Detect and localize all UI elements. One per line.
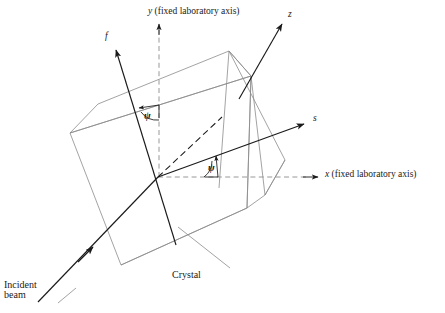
z-axis-label: z [288,10,292,20]
x-axis-label: x (fixed laboratory axis) [325,170,417,180]
incident-beam-arrowhead-stem [78,247,93,262]
y-axis-caption-text: (fixed laboratory axis) [152,6,239,16]
f-vector-label: f [105,32,108,42]
crystal-body [70,51,285,265]
figure-canvas: y (fixed laboratory axis) x (fixed labor… [0,0,445,313]
incident-beam-label: Incident beam [4,280,37,300]
x-axis-caption-text: (fixed laboratory axis) [329,169,416,179]
crystal-axes-vectors [116,24,304,245]
psi-upper-tick-horizontal [139,105,159,108]
s-vector-label: s [313,114,317,124]
z-vector-line [239,24,282,99]
incident-beam-line [38,177,158,302]
incident-beam-leader-line [58,288,76,303]
crystal-bevel-fold-edge [247,76,251,208]
crystal-leader-line [178,227,230,268]
crystal-bottom-right-bevel [247,160,285,208]
crystal-inner-edge [219,51,229,188]
f-vector-line [116,50,176,245]
angle-psi-lower-label: ψ [208,163,215,173]
crystal-bottom-edge [121,208,247,265]
crystal-right-face [229,51,285,195]
s-vector-line [158,124,304,177]
crystal-label: Crystal [172,270,201,280]
incident-beam [38,177,158,302]
angle-psi-upper-label: ψ [144,111,151,121]
leader-lines [58,227,230,303]
crystal-axes-diagram [0,0,445,313]
psi-lower-tick-vertical [216,156,218,177]
y-axis-label: y (fixed laboratory axis) [148,7,240,17]
incident-beam-label-line2: beam [4,290,37,300]
